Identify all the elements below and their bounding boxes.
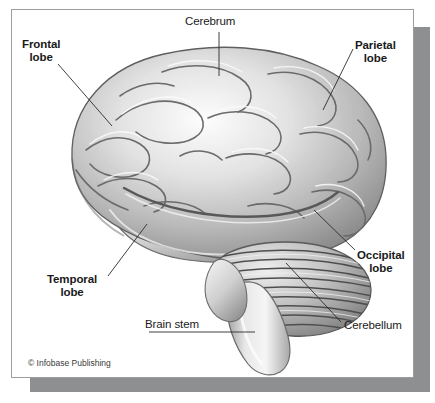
label-cerebrum: Cerebrum (185, 15, 235, 28)
copyright-notice: © Infobase Publishing (28, 358, 111, 368)
label-temporal-lobe-line2: lobe (47, 286, 97, 299)
figure-card: Cerebrum Frontal lobe Parietal lobe Occi… (11, 9, 414, 378)
label-parietal-lobe-line1: Parietal (355, 39, 396, 51)
brain-diagram-figure: Cerebrum Frontal lobe Parietal lobe Occi… (0, 0, 435, 403)
label-cerebrum-line1: Cerebrum (185, 15, 235, 27)
label-occipital-lobe-line1: Occipital (357, 249, 405, 261)
label-parietal-lobe-line2: lobe (355, 52, 396, 65)
label-occipital-lobe-line2: lobe (357, 262, 405, 275)
label-frontal-lobe: Frontal lobe (22, 38, 60, 64)
label-parietal-lobe: Parietal lobe (355, 39, 396, 65)
label-temporal-lobe-line1: Temporal (47, 273, 97, 285)
label-brain-stem-line1: Brain stem (145, 318, 199, 330)
label-frontal-lobe-line2: lobe (22, 51, 60, 64)
label-brain-stem: Brain stem (145, 318, 199, 331)
label-frontal-lobe-line1: Frontal (22, 38, 60, 50)
label-cerebellum-line1: Cerebellum (344, 319, 402, 331)
label-temporal-lobe: Temporal lobe (47, 273, 97, 299)
label-occipital-lobe: Occipital lobe (357, 249, 405, 275)
label-cerebellum: Cerebellum (344, 319, 402, 332)
